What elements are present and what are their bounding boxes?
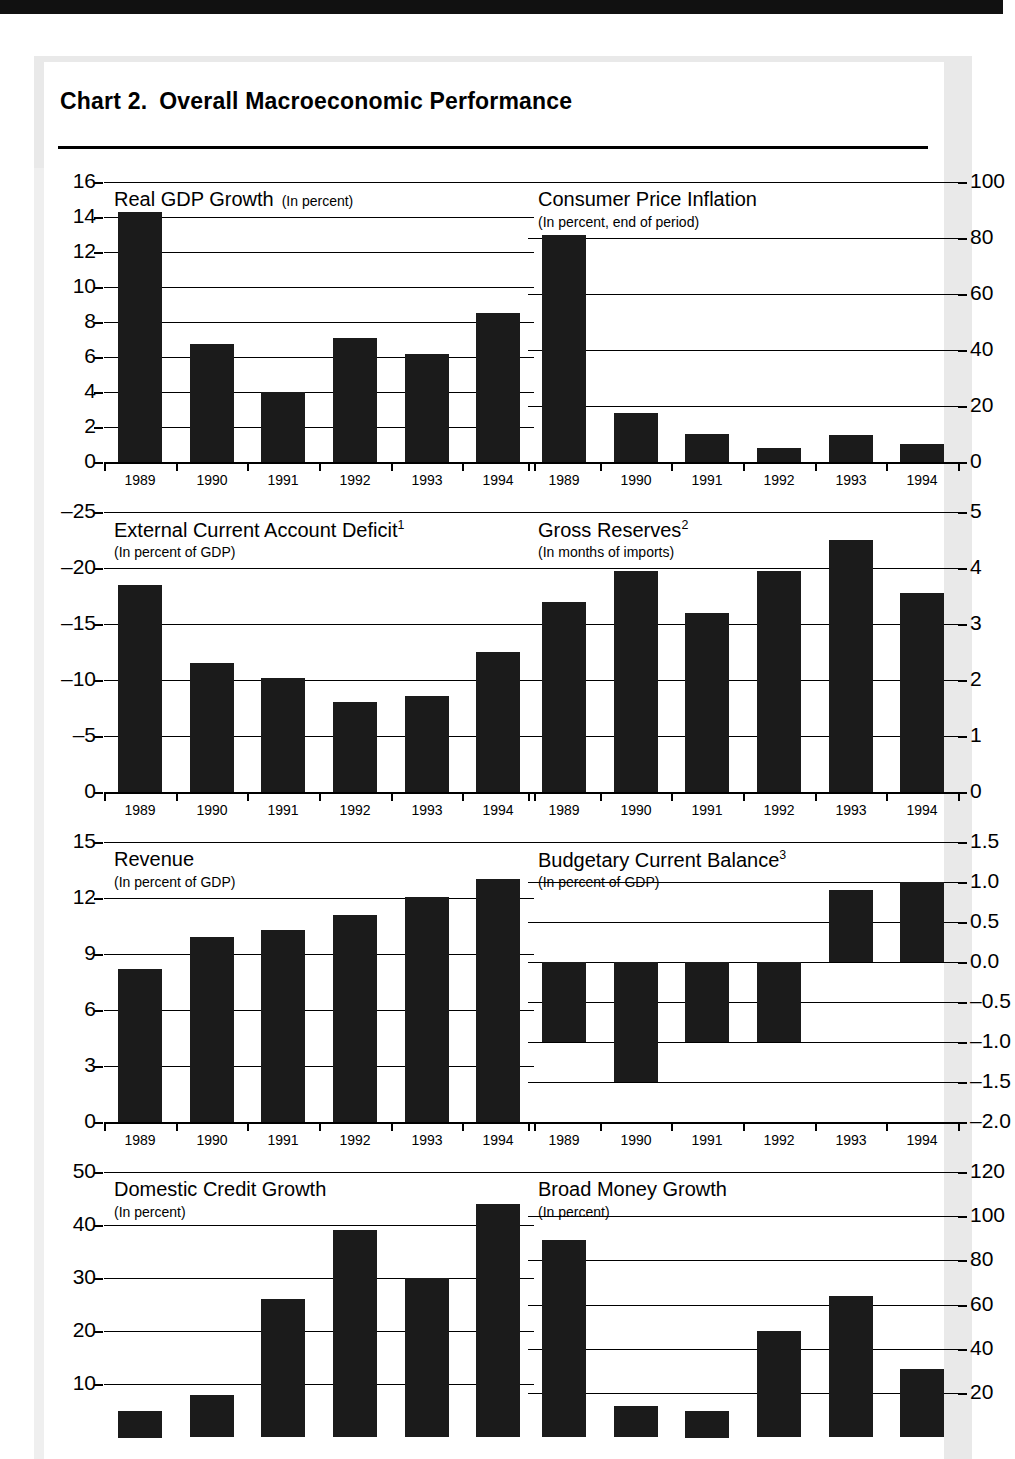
axis-tick [94,1066,103,1068]
axis-tick [958,406,967,408]
y-axis-label: 100 [970,170,1015,191]
x-axis-label-1993: 1993 [815,802,887,818]
y-axis-label: 0.0 [970,950,1015,971]
axis-tick [958,842,967,844]
bar-real-gdp-growth-1989 [118,212,162,462]
y-axis-label: 9 [46,942,96,963]
x-axis-label-1989: 1989 [104,472,176,488]
axis-tick [958,922,967,924]
footnote-marker: 3 [779,848,786,862]
axis-tick [94,1225,103,1227]
x-axis-tick [247,794,249,801]
panel-subtitle-domestic-credit-growth: (In percent) [114,1204,186,1220]
x-axis-tick [815,1124,817,1131]
y-axis-label: 2 [970,668,1015,689]
x-axis-tick [600,794,602,801]
y-axis-label: –5 [46,724,96,745]
axis-tick [958,680,967,682]
axis-tick [94,322,103,324]
x-axis-label-1994: 1994 [886,802,958,818]
x-axis-tick [391,1124,393,1131]
gridline [104,287,534,288]
gridline [528,624,958,625]
axis-tick [958,294,967,296]
bar-revenue-1992 [333,915,377,1122]
gridline [104,624,534,625]
axis-tick [94,568,103,570]
bar-domestic-credit-growth-1993 [405,1278,449,1437]
axis-tick [958,1216,967,1218]
y-axis-label: 3 [970,612,1015,633]
y-axis-label: 40 [970,338,1015,359]
x-axis-label-1993: 1993 [391,1132,463,1148]
axis-tick [94,357,103,359]
gridline [528,1172,958,1173]
y-axis-label: 2 [46,415,96,436]
gridline [528,680,958,681]
chart-page: Chart 2.Overall Macroeconomic Performanc… [44,62,944,1459]
x-axis-label-1989: 1989 [528,1132,600,1148]
x-axis-label-1993: 1993 [391,802,463,818]
y-axis-label: 0 [46,1110,96,1131]
chart-panel-external-current-account-deficit: 0–5–10–15–20–25External Current Account … [104,512,534,838]
panel-subtitle-budgetary-current-balance: (In percent of GDP) [538,874,659,890]
y-axis-label: 120 [970,1160,1015,1181]
x-axis-label-1992: 1992 [743,1132,815,1148]
bar-consumer-price-inflation-1991 [685,434,729,462]
bar-budgetary-current-balance-1994 [900,882,944,962]
bar-revenue-1990 [190,937,234,1122]
x-axis-tick [176,1124,178,1131]
footnote-marker: 1 [397,518,404,532]
x-axis-tick [247,1124,249,1131]
x-axis-label-1990: 1990 [600,1132,672,1148]
x-axis-label-1989: 1989 [528,472,600,488]
bar-budgetary-current-balance-1993 [829,890,873,962]
bar-consumer-price-inflation-1993 [829,435,873,462]
bar-broad-money-growth-1994 [900,1369,944,1437]
x-axis-label-1994: 1994 [462,1132,534,1148]
gridline [104,1066,534,1067]
footnote-marker: 2 [681,518,688,532]
x-axis-label-1992: 1992 [743,472,815,488]
gridline [528,922,958,923]
panel-subtitle-consumer-price-inflation: (In percent, end of period) [538,214,699,230]
axis-tick [958,350,967,352]
y-axis-label: –20 [46,556,96,577]
axis-tick [94,842,103,844]
gridline [528,1393,958,1394]
y-axis-label: –15 [46,612,96,633]
bar-domestic-credit-growth-1992 [333,1230,377,1437]
bar-consumer-price-inflation-1989 [542,235,586,462]
chart-panel-revenue: 03691215Revenue(In percent of GDP)198919… [104,842,534,1168]
bar-real-gdp-growth-1992 [333,338,377,462]
y-axis-label: 20 [970,1381,1015,1402]
x-axis-tick [391,464,393,471]
bar-external-current-account-deficit-1990 [190,663,234,792]
axis-tick [94,954,103,956]
bar-consumer-price-inflation-1992 [757,448,801,462]
axis-tick [94,1010,103,1012]
x-axis-tick [958,1124,960,1131]
gridline [528,182,958,183]
x-axis-label-1991: 1991 [671,1132,743,1148]
panel-subtitle-real-gdp-growth: (In percent) [282,193,354,209]
x-axis-tick [319,464,321,471]
x-axis-tick [462,794,464,801]
x-axis-label-1992: 1992 [319,1132,391,1148]
axis-tick [94,252,103,254]
gridline [104,427,534,428]
x-axis-tick [462,1124,464,1131]
y-axis-label: –0.5 [970,990,1015,1011]
x-axis-label-1989: 1989 [104,802,176,818]
gridline [104,568,534,569]
gridline [528,350,958,351]
bar-broad-money-growth-1993 [829,1296,873,1437]
bar-external-current-account-deficit-1989 [118,585,162,792]
x-axis-label-1994: 1994 [886,1132,958,1148]
axis-tick [94,392,103,394]
gridline [528,568,958,569]
gridline [528,1260,958,1261]
axis-tick [94,1384,103,1386]
y-axis-label: 5 [970,500,1015,521]
gridline [528,1042,958,1043]
